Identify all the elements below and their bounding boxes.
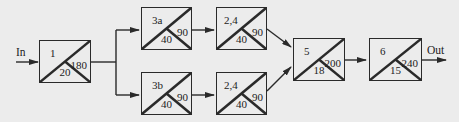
block-bottom-value: 40 bbox=[142, 34, 191, 45]
block-3a: 3a 90 40 bbox=[141, 7, 192, 50]
block-2-4-bottom: 2,4 90 40 bbox=[216, 72, 267, 115]
block-id: 6 bbox=[380, 46, 386, 57]
block-bottom-value: 40 bbox=[217, 34, 266, 45]
block-5: 5 200 18 bbox=[293, 38, 345, 81]
output-label: Out bbox=[427, 44, 444, 56]
block-bottom-value: 40 bbox=[217, 99, 266, 110]
block-id: 5 bbox=[304, 46, 310, 57]
block-1: 1 180 20 bbox=[39, 40, 91, 83]
block-id: 1 bbox=[50, 48, 56, 59]
block-bottom-value: 40 bbox=[142, 99, 191, 110]
block-id: 2,4 bbox=[224, 15, 238, 26]
block-bottom-value: 18 bbox=[294, 65, 344, 76]
block-bottom-value: 15 bbox=[370, 65, 421, 76]
block-id: 2,4 bbox=[224, 80, 238, 91]
block-bottom-value: 20 bbox=[40, 67, 90, 78]
block-6: 6 240 15 bbox=[369, 38, 422, 81]
block-2-4-top: 2,4 90 40 bbox=[216, 7, 267, 50]
flow-diagram: In Out 1 180 20 3a 90 40 2,4 90 40 bbox=[0, 0, 459, 122]
block-id: 3a bbox=[152, 15, 162, 26]
block-3b: 3b 90 40 bbox=[141, 72, 192, 115]
input-label: In bbox=[16, 46, 26, 58]
block-id: 3b bbox=[152, 80, 163, 91]
